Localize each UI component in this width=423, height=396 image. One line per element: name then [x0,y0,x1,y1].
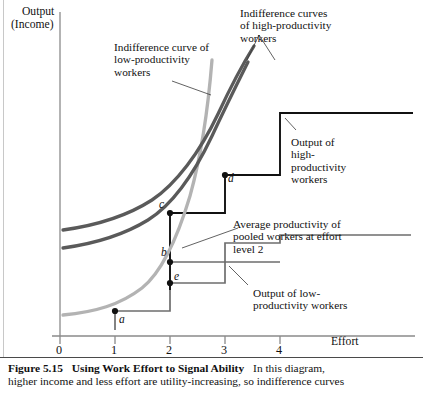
y-axis-label-line1: Output [22,6,54,18]
x-tick-0: 0 [56,344,62,356]
y-axis-label-line2: (Income) [11,19,54,31]
point-b [167,259,173,265]
x-axis-label: Effort [331,336,358,348]
caption-line-2: higher income and less effort are utilit… [8,375,413,388]
x-tick-3: 3 [221,344,227,356]
indifference-curve-low [63,60,212,315]
annotation-pooled-productivity: Average productivity of pooled workers a… [233,218,342,255]
point-label-c: c [159,198,164,210]
leader-output-high [285,118,296,130]
figure-number: Figure 5.15 [8,362,63,374]
point-label-b: b [161,246,167,258]
figure-caption: Figure 5.15Using Work Effort to Signal A… [0,357,423,396]
point-label-a: a [119,313,125,325]
figure-5-15: Output (Income) Indifference curve of lo… [0,0,423,396]
caption-line-1: Figure 5.15Using Work Effort to Signal A… [8,362,413,375]
figure-title: Using Work Effort to Signal Ability [72,362,244,374]
annotation-output-high: Output of high- productivity workers [291,136,346,186]
caption-rest: In this diagram, [253,362,325,374]
leader-output-low [229,266,248,285]
annotation-high-indifference: Indifference curves of high-productivity… [240,7,331,44]
point-e [167,280,173,286]
x-tick-4: 4 [276,344,282,356]
signaling-diagram [0,0,423,360]
annotation-output-low: Output of low- productivity workers [253,287,347,312]
point-label-d: d [228,172,234,184]
point-c [167,210,173,216]
leader-pooled [182,228,238,248]
point-a [112,308,118,314]
x-tick-1: 1 [111,344,117,356]
indifference-curve-high-lower [63,62,248,248]
leader-low-curve [172,81,211,95]
point-label-e: e [174,270,179,282]
annotation-low-indifference: Indifference curve of low-productivity w… [114,41,209,78]
x-tick-2: 2 [166,344,172,356]
